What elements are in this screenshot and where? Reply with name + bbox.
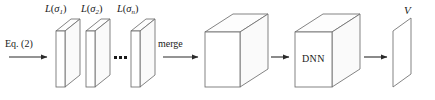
slab-1-label: L(σ1) [45,4,67,15]
output-plane-shape [393,18,411,87]
output-plane-label: V [404,5,411,16]
slab-ellipsis [114,56,127,59]
slab-2-label: L(σ2) [81,4,103,15]
arrow-merge-label: merge [158,39,183,49]
slab-n-label: L(σn) [117,4,139,15]
arrow-eq-label: Eq. (2) [5,39,33,49]
slab-2-shape [86,19,110,87]
merged-cube-shape [205,14,268,87]
dnn-cube-label: DNN [302,54,325,64]
figure-canvas: Eq. (2) L(σ1) L(σ2) L(σn) merge DNN V [0,0,435,100]
slab-n-shape [131,19,155,87]
dnn-cube-shape [295,14,360,87]
slab-1-shape [56,19,80,87]
